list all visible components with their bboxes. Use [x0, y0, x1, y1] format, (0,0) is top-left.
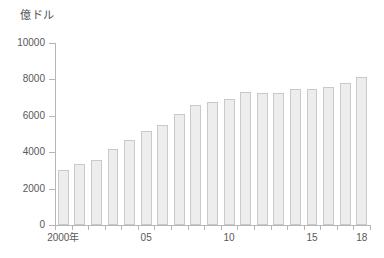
x-axis-tick [237, 225, 238, 230]
bar [224, 99, 235, 225]
x-axis-tick [254, 225, 255, 230]
bar [290, 89, 301, 225]
y-axis-tick-label: 0 [39, 220, 45, 230]
x-axis-tick-label: 05 [141, 232, 152, 243]
bar [74, 164, 85, 225]
x-axis-tick [138, 225, 139, 230]
bar [257, 93, 268, 225]
x-axis-tick [337, 225, 338, 230]
x-axis-tick [287, 225, 288, 230]
bar [108, 149, 119, 225]
x-axis-tick-label: 18 [356, 232, 367, 243]
bar-chart: 億ドル 1000080006000400020000 2000年05101518 [0, 0, 384, 258]
x-axis-tick [320, 225, 321, 230]
y-axis-tick-label: 2000 [23, 184, 45, 194]
bar [307, 89, 318, 226]
bar [190, 105, 201, 225]
x-axis-tick [304, 225, 305, 230]
plot-area [55, 43, 370, 225]
x-axis-tick [121, 225, 122, 230]
x-axis-tick [188, 225, 189, 230]
bar [273, 93, 284, 225]
x-axis-line [55, 225, 371, 226]
bar [340, 83, 351, 225]
x-axis-tick [353, 225, 354, 230]
x-axis-tick [271, 225, 272, 230]
x-axis-tick [154, 225, 155, 230]
bar [174, 114, 185, 225]
bar [141, 131, 152, 225]
y-axis-unit-label: 億ドル [20, 9, 55, 22]
x-axis-tick [171, 225, 172, 230]
y-axis-tick-label: 4000 [23, 147, 45, 157]
y-axis-tick-label: 6000 [23, 111, 45, 121]
bar [157, 125, 168, 225]
x-axis-tick-label: 15 [306, 232, 317, 243]
x-axis-tick [88, 225, 89, 230]
x-axis-tick-label: 2000年 [47, 232, 79, 243]
y-axis-tick-label: 10000 [17, 38, 45, 48]
x-axis-tick [204, 225, 205, 230]
bar [58, 170, 69, 226]
bar [124, 140, 135, 225]
bar [91, 160, 102, 225]
x-axis-tick [72, 225, 73, 230]
y-axis-tick-label: 8000 [23, 74, 45, 84]
x-axis-tick [105, 225, 106, 230]
x-axis-tick [221, 225, 222, 230]
bar [323, 87, 334, 225]
x-axis-tick [55, 225, 56, 230]
bar [240, 92, 251, 225]
x-axis-tick [370, 225, 371, 230]
x-axis-tick-label: 10 [224, 232, 235, 243]
bar [207, 102, 218, 225]
bar [356, 77, 367, 225]
